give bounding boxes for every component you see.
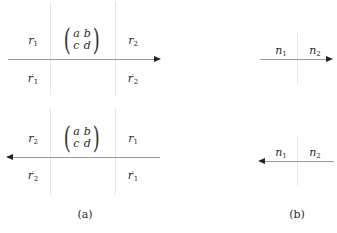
matrix-entry-d: d (84, 40, 91, 52)
caption-a: (a) (77, 208, 92, 221)
label-upper-right: r1 (128, 133, 138, 148)
divider-line (115, 108, 116, 195)
label-right: n2 (309, 45, 321, 60)
matrix: ( a b c d ) (61, 123, 102, 153)
matrix-entries: a b c d (73, 126, 91, 150)
divider-line (115, 2, 116, 95)
label-left: n1 (275, 45, 287, 60)
arrow-right-icon (326, 56, 333, 62)
left-paren: ( (64, 25, 71, 55)
matrix-entry-c: c (73, 138, 80, 150)
arrow-left-icon (258, 158, 265, 164)
label-upper-left: r2 (28, 133, 38, 148)
matrix-entry-d: d (84, 138, 91, 150)
matrix-entries: a b c d (73, 28, 91, 52)
arrow-left-icon (6, 154, 13, 160)
matrix: ( a b c d ) (61, 25, 102, 55)
label-left: n1 (275, 147, 287, 162)
label-upper-left: r1 (28, 35, 38, 50)
left-paren: ( (64, 123, 71, 153)
label-lower-left: r′1 (28, 71, 38, 88)
caption-b: (b) (289, 208, 305, 221)
right-paren: ) (93, 123, 100, 153)
arrow-right-icon (154, 56, 161, 62)
arrow-line (8, 59, 158, 60)
label-upper-right: r2 (128, 35, 138, 50)
label-lower-right: r′1 (128, 168, 138, 185)
right-paren: ) (93, 25, 100, 55)
label-right: n2 (309, 147, 321, 162)
divider-line (50, 108, 51, 195)
divider-line (50, 2, 51, 95)
label-lower-right: r′2 (128, 71, 138, 88)
label-lower-left: r′2 (28, 168, 38, 185)
matrix-entry-c: c (73, 40, 80, 52)
arrow-line (12, 157, 160, 158)
